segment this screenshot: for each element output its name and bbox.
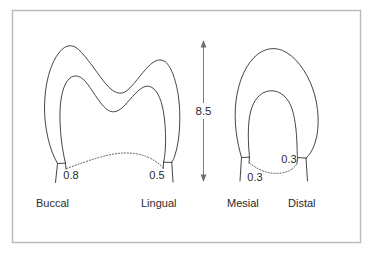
view-label-distal: Distal bbox=[288, 197, 316, 209]
view-label-mesial: Mesial bbox=[227, 197, 259, 209]
crown-height-value: 8.5 bbox=[196, 105, 212, 117]
view-label-buccal: Buccal bbox=[36, 197, 69, 209]
figure-container: 8.5 0.8 0.5 0.3 0.3 Buccal Lingual bbox=[0, 0, 373, 253]
measure-value-mesial: 0.3 bbox=[247, 171, 262, 183]
measure-value-distal: 0.3 bbox=[281, 153, 296, 165]
measure-value-lingual: 0.5 bbox=[149, 169, 164, 181]
view-label-lingual: Lingual bbox=[141, 197, 176, 209]
measure-value-buccal: 0.8 bbox=[63, 169, 78, 181]
root-stub-mesial-inner bbox=[249, 157, 250, 163]
tooth-diagram-svg: 8.5 0.8 0.5 0.3 0.3 Buccal Lingual bbox=[0, 0, 373, 253]
root-stub-distal-inner bbox=[297, 158, 298, 164]
